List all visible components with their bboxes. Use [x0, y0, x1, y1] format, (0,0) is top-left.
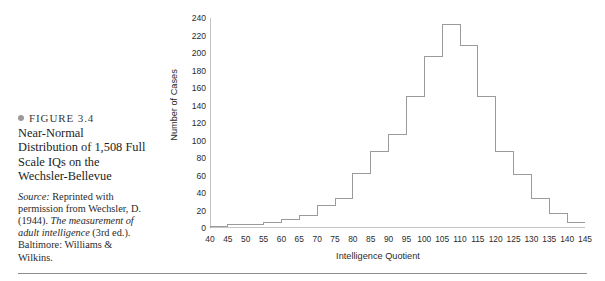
x-axis-tick-label: 95: [402, 234, 411, 244]
x-axis-tick-label: 135: [542, 234, 556, 244]
y-axis-tick-label: 20: [196, 206, 206, 216]
x-axis-tick-label: 120: [489, 234, 503, 244]
plot-area: 0204060801001201401601802002202404045505…: [210, 18, 585, 228]
figure-number-line: FIGURE 3.4: [18, 112, 146, 124]
histogram-step-outline: [210, 24, 585, 228]
x-axis-tick-label: 145: [578, 234, 592, 244]
x-axis-tick-label: 40: [205, 234, 214, 244]
x-axis-tick-label: 125: [507, 234, 521, 244]
x-axis-tick-label: 50: [241, 234, 250, 244]
x-axis-tick-label: 140: [560, 234, 574, 244]
x-axis-tick-label: 75: [330, 234, 339, 244]
figure-title: Near-Normal Distribution of 1,508 Full S…: [18, 126, 146, 184]
y-axis-tick-label: 160: [192, 83, 206, 93]
figure-caption-block: FIGURE 3.4 Near-Normal Distribution of 1…: [18, 112, 146, 264]
x-axis-tick-label: 115: [471, 234, 484, 244]
y-axis-tick-label: 120: [192, 118, 206, 128]
x-axis-tick-label: 65: [295, 234, 304, 244]
y-axis-title: Number of Cases: [169, 45, 179, 165]
source-label: Source:: [18, 191, 50, 202]
x-axis-tick-label: 80: [348, 234, 357, 244]
chart-container: Number of Cases Intelligence Quotient 02…: [158, 8, 598, 270]
y-axis-tick-label: 200: [192, 48, 206, 58]
x-axis-tick-label: 70: [312, 234, 321, 244]
y-axis-tick-label: 40: [196, 188, 206, 198]
y-axis-tick-label: 0: [201, 223, 206, 233]
x-axis-tick-label: 55: [259, 234, 268, 244]
y-axis-tick-label: 80: [196, 153, 206, 163]
bullet-dot-icon: [18, 115, 24, 121]
x-axis-tick-label: 85: [366, 234, 375, 244]
y-axis-tick-label: 140: [192, 101, 206, 111]
y-axis-tick-label: 180: [192, 66, 206, 76]
figure-page: FIGURE 3.4 Near-Normal Distribution of 1…: [0, 0, 605, 281]
x-axis-tick-label: 100: [417, 234, 431, 244]
histogram-svg: [210, 18, 585, 228]
figure-source: Source: Reprinted with permission from W…: [18, 191, 146, 264]
y-axis-tick-label: 100: [192, 136, 206, 146]
y-axis-tick-label: 240: [192, 13, 206, 23]
figure-number: FIGURE 3.4: [29, 112, 94, 124]
x-axis-tick-label: 130: [524, 234, 538, 244]
bottom-divider-rule: [18, 273, 587, 274]
x-axis-tick-label: 60: [277, 234, 286, 244]
y-axis-tick-label: 220: [192, 31, 206, 41]
x-axis-tick-label: 45: [223, 234, 232, 244]
y-axis-tick-label: 60: [196, 171, 206, 181]
x-axis-tick-label: 110: [453, 234, 466, 244]
x-axis-tick-label: 90: [384, 234, 393, 244]
x-axis-tick-label: 105: [435, 234, 449, 244]
x-axis-title: Intelligence Quotient: [158, 251, 598, 261]
